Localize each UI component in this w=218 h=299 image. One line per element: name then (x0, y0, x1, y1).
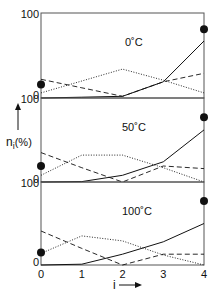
x-label-i: i (113, 278, 116, 292)
data-marker (200, 25, 208, 33)
panel-frame (41, 13, 204, 98)
panel-temperature-label: 100˚C (122, 205, 152, 217)
x-tick-0: 0 (38, 268, 44, 280)
panel-1: 010050˚C (21, 93, 208, 185)
x-tick-3: 3 (160, 268, 166, 280)
svg-text:ni(%): ni(%) (6, 135, 32, 151)
series-dashed (41, 153, 204, 182)
y-tick-100: 100 (21, 177, 39, 189)
y-tick-100: 100 (21, 93, 39, 105)
series-dotted (41, 69, 204, 93)
y-label-n: n (6, 135, 13, 149)
panel-frame (41, 182, 204, 265)
y-tick-0: 0 (33, 256, 39, 268)
panel-0: 01000˚C (21, 8, 208, 101)
x-axis-label: i (113, 278, 142, 292)
y-label-unit: (%) (15, 136, 32, 148)
panel-temperature-label: 0˚C (125, 36, 143, 48)
panel-frame (41, 98, 204, 182)
x-tick-1: 1 (79, 268, 85, 280)
x-axis: 01234 (38, 268, 207, 280)
data-marker (200, 197, 208, 205)
series-dashed (41, 73, 204, 96)
series-dotted (41, 155, 204, 182)
data-marker (37, 249, 45, 257)
panel-temperature-label: 50˚C (122, 121, 146, 133)
x-axis-arrowhead-icon (135, 282, 142, 288)
series-dashed (41, 231, 204, 265)
data-marker (37, 80, 45, 88)
series-dotted (41, 236, 204, 265)
panel-2: 0100100˚C (21, 177, 208, 268)
chart-panels: 01000˚C010050˚C0100100˚C (21, 8, 208, 268)
y-tick-100: 100 (21, 8, 39, 20)
stacked-line-chart: 01000˚C010050˚C0100100˚C 01234 ni(%) i (0, 0, 218, 299)
series-solid (41, 224, 204, 266)
data-marker (37, 162, 45, 170)
y-axis-label: ni(%) (6, 103, 32, 151)
series-solid (41, 130, 204, 182)
data-marker (200, 113, 208, 121)
series-solid (41, 41, 204, 98)
x-tick-2: 2 (119, 268, 125, 280)
x-tick-4: 4 (201, 268, 207, 280)
